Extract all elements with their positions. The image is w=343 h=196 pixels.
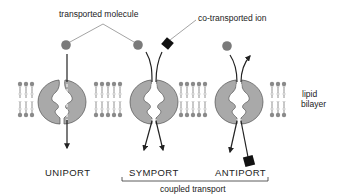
- antiport-label: ANTIPORT: [215, 167, 266, 178]
- antiport-transporter: [215, 41, 263, 167]
- coupled-transport-label: coupled transport: [160, 184, 226, 194]
- uniport-label: UNIPORT: [45, 167, 90, 178]
- leader-lines: [70, 20, 196, 42]
- transported-molecule-icon: [61, 40, 71, 50]
- co-transported-ion-icon: [161, 37, 174, 50]
- co-transported-ion-label: co-transported ion: [198, 13, 267, 23]
- symport-label: SYMPORT: [129, 167, 179, 178]
- lipid-label: lipid: [302, 89, 317, 99]
- transported-molecule-icon: [222, 41, 232, 51]
- transported-molecule-icon: [133, 40, 143, 50]
- transported-molecule-label: transported molecule: [59, 9, 138, 19]
- co-transported-ion-icon: [243, 155, 255, 167]
- bilayer-label: bilayer: [301, 99, 326, 109]
- uniport-transporter: [38, 40, 86, 148]
- symport-transporter: [130, 37, 178, 150]
